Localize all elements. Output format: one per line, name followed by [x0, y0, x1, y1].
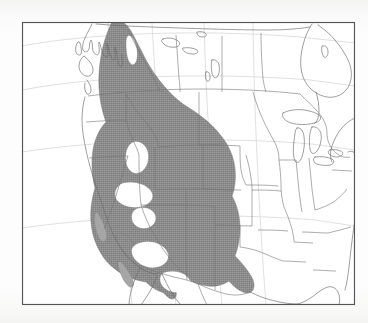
figure-caption: [0, 312, 368, 313]
range-gap-snake-river: [132, 208, 156, 228]
figure-container: [0, 0, 368, 323]
range-map: [0, 0, 368, 323]
